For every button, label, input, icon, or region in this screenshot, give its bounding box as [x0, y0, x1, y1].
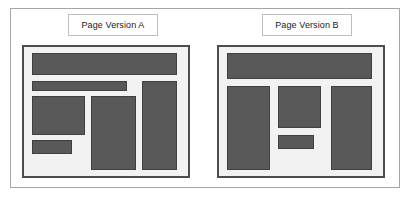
variant-b-right-column-box: [331, 86, 372, 170]
variant-a-label-box: Page Version A: [68, 14, 158, 36]
figure-canvas: Page Version A Page Version B: [0, 0, 414, 198]
variant-b-block-stage: [219, 47, 383, 176]
variant-a-center-column-box: [91, 96, 135, 170]
variant-a-left-content-box: [32, 96, 84, 135]
variant-a-right-column-box: [142, 81, 176, 170]
variant-b-label-text: Page Version B: [275, 21, 338, 30]
variant-b-header-bar: [227, 53, 371, 79]
variant-a-label-text: Page Version A: [82, 21, 145, 30]
variant-a-subheader-bar: [32, 81, 127, 92]
variant-a-block-stage: [24, 47, 188, 176]
variant-b-center-small-box: [278, 135, 314, 149]
variant-b-wireframe-panel: [217, 45, 385, 178]
variant-b-center-content-box: [278, 86, 321, 129]
variant-a-header-bar: [32, 53, 176, 75]
variant-b-label-box: Page Version B: [262, 14, 352, 36]
variant-a-left-small-box: [32, 140, 71, 154]
variant-b-left-column-box: [227, 86, 270, 170]
variant-a-wireframe-panel: [22, 45, 190, 178]
